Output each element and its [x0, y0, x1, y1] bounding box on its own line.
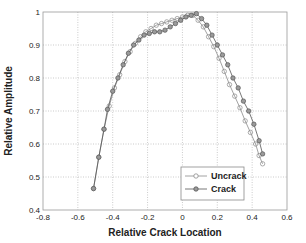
x-axis-label: Relative Crack Location	[108, 227, 221, 238]
filled-circle-marker-icon	[194, 187, 198, 191]
y-tick-label: 0.8	[29, 74, 41, 83]
filled-circle-marker-icon	[189, 13, 193, 17]
filled-circle-marker-icon	[131, 43, 135, 47]
filled-circle-marker-icon	[163, 28, 167, 32]
filled-circle-marker-icon	[168, 25, 172, 29]
open-circle-marker-icon	[194, 174, 198, 178]
filled-circle-marker-icon	[102, 127, 106, 131]
filled-circle-marker-icon	[199, 16, 203, 20]
filled-circle-marker-icon	[121, 63, 125, 67]
filled-circle-marker-icon	[137, 38, 141, 42]
x-tick-label: -0.2	[141, 213, 155, 222]
filled-circle-marker-icon	[252, 122, 256, 126]
legend-label-crack: Crack	[211, 184, 237, 194]
y-tick-label: 0.5	[29, 173, 41, 182]
legend-label-uncrack: Uncrack	[211, 171, 248, 181]
filled-circle-marker-icon	[142, 33, 146, 37]
y-tick-label: 1	[36, 8, 41, 17]
filled-circle-marker-icon	[215, 43, 219, 47]
legend: Uncrack Crack	[181, 167, 248, 200]
filled-circle-marker-icon	[178, 18, 182, 22]
x-tick-label: -0.4	[106, 213, 120, 222]
filled-circle-marker-icon	[152, 30, 156, 34]
line-chart: -0.8-0.6-0.4-0.200.20.40.6 0.40.50.60.70…	[0, 0, 306, 243]
y-tick-label: 0.7	[29, 107, 41, 116]
filled-circle-marker-icon	[246, 109, 250, 113]
filled-circle-marker-icon	[116, 76, 120, 80]
filled-circle-marker-icon	[97, 155, 101, 159]
y-tick-label: 0.4	[29, 206, 41, 215]
filled-circle-marker-icon	[205, 23, 209, 27]
filled-circle-marker-icon	[226, 63, 230, 67]
filled-circle-marker-icon	[105, 107, 109, 111]
filled-circle-marker-icon	[210, 33, 214, 37]
x-tick-label: 0.2	[212, 213, 224, 222]
filled-circle-marker-icon	[91, 186, 95, 190]
filled-circle-marker-icon	[184, 15, 188, 19]
filled-circle-marker-icon	[158, 30, 162, 34]
filled-circle-marker-icon	[236, 86, 240, 90]
filled-circle-marker-icon	[173, 21, 177, 25]
filled-circle-marker-icon	[111, 89, 115, 93]
y-tick-label: 0.9	[29, 41, 41, 50]
x-tick-label: -0.6	[71, 213, 85, 222]
y-axis-label: Relative Amplitude	[3, 66, 14, 156]
y-tick-label: 0.6	[29, 140, 41, 149]
filled-circle-marker-icon	[241, 99, 245, 103]
filled-circle-marker-icon	[231, 76, 235, 80]
filled-circle-marker-icon	[220, 53, 224, 57]
filled-circle-marker-icon	[257, 139, 261, 143]
filled-circle-marker-icon	[260, 152, 264, 156]
x-tick-label: 0	[180, 213, 185, 222]
filled-circle-marker-icon	[126, 51, 130, 55]
filled-circle-marker-icon	[147, 31, 151, 35]
x-tick-label: 0.6	[281, 213, 293, 222]
x-tick-label: 0.4	[247, 213, 259, 222]
filled-circle-marker-icon	[194, 11, 198, 15]
